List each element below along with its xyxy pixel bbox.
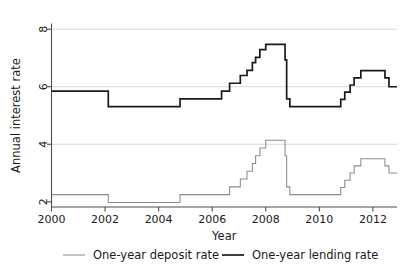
y-tick-label-4: 4 — [37, 141, 50, 148]
x-tick-label-2000: 2000 — [38, 213, 66, 226]
x-tick-label-2002: 2002 — [91, 213, 119, 226]
legend-label-one-year-deposit-rate: One-year deposit rate — [93, 248, 219, 262]
y-axis-title: Annual interest rate — [9, 58, 23, 173]
y-tick-label-8: 8 — [37, 26, 50, 33]
legend-label-one-year-lending-rate: One-year lending rate — [252, 248, 378, 262]
chart-background — [0, 0, 406, 275]
interest-rate-line-chart: 2468 2000200220042006200820102012 Annual… — [0, 0, 406, 275]
x-tick-label-2012: 2012 — [359, 213, 387, 226]
x-tick-label-2010: 2010 — [305, 213, 333, 226]
chart-canvas: 2468 2000200220042006200820102012 Annual… — [0, 0, 406, 275]
y-tick-label-2: 2 — [37, 198, 50, 205]
x-tick-label-2004: 2004 — [145, 213, 173, 226]
x-tick-label-2008: 2008 — [252, 213, 280, 226]
x-axis-title: Year — [211, 229, 237, 243]
x-tick-label-2006: 2006 — [198, 213, 226, 226]
y-tick-label-6: 6 — [37, 83, 50, 90]
